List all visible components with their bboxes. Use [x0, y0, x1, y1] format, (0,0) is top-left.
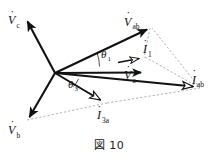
- label-i-1-dot: ·: [144, 34, 148, 46]
- label-i-3a: I 3a ·: [96, 100, 110, 125]
- label-v-b: V b ·: [8, 115, 21, 140]
- label-v-b-dot: ·: [11, 115, 15, 127]
- label-theta-3: θ 3: [68, 78, 79, 93]
- label-i-ab-dot: ·: [193, 64, 197, 76]
- label-v-a-dot: ·: [127, 60, 131, 72]
- label-v-ab-sub: ab: [133, 22, 140, 31]
- vector-v-b: [30, 73, 56, 117]
- construction-lines-group: [27, 28, 200, 120]
- phasor-figure: V c · V ab · V a · V b · I 1 ·: [0, 0, 218, 162]
- label-i-3a-dot: ·: [98, 100, 102, 112]
- label-i-1: I 1 ·: [142, 34, 152, 59]
- figure-caption: 図 10: [0, 138, 218, 153]
- label-i-1-sub: 1: [148, 50, 152, 59]
- label-theta-1-sub: 1: [108, 55, 112, 63]
- label-v-c-sub: c: [17, 21, 21, 30]
- label-theta-3-main: θ: [68, 78, 74, 90]
- label-v-ab-dot: ·: [127, 6, 131, 18]
- dashed-line-vb-to-i3a: [27, 103, 107, 120]
- label-v-ab: V ab ·: [124, 6, 140, 31]
- dashed-line-i3a-to-iab: [107, 88, 200, 103]
- label-theta-3-sub: 3: [75, 85, 79, 93]
- label-v-c-dot: ·: [11, 5, 15, 17]
- vector-v-c: [28, 22, 56, 74]
- theta-1-arc: [97, 53, 100, 67]
- figure-caption-text: 図 10: [94, 139, 125, 153]
- label-v-c: V c ·: [8, 5, 21, 30]
- label-i-ab-sub: ab: [197, 80, 204, 89]
- label-i-ab: I ab ·: [191, 64, 204, 89]
- label-theta-1: θ 1: [101, 48, 112, 63]
- label-theta-1-main: θ: [101, 48, 107, 60]
- label-i-3a-sub: 3a: [102, 116, 110, 125]
